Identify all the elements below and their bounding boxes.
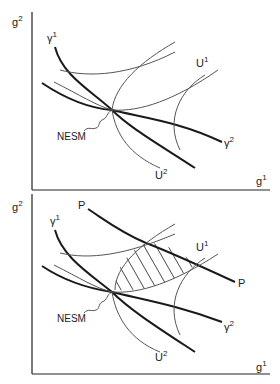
U2-label: U2 <box>155 352 167 363</box>
P-label-right: P <box>238 278 245 289</box>
U1-right-branch <box>174 75 205 150</box>
indifference-curve-upper <box>60 52 175 74</box>
y-axis-label: g2 <box>12 202 23 213</box>
x-axis-label: g1 <box>256 176 267 187</box>
nesm-label: NESM <box>57 132 86 142</box>
P-line <box>88 209 235 282</box>
U2-upper-branch <box>115 224 175 290</box>
nesm-pointer <box>84 292 112 313</box>
gamma1-label: γ1 <box>47 33 57 44</box>
U1-label: U1 <box>196 58 208 69</box>
nesm-label: NESM <box>57 314 86 324</box>
U2-label: U2 <box>155 170 167 181</box>
P-label-left: P <box>78 200 85 211</box>
nesm-pointer <box>84 110 112 131</box>
U1-label: U1 <box>196 242 208 253</box>
gamma2-label: γ2 <box>224 322 234 333</box>
diagram-panel-top: g2 g1 γ1 γ2 U1 U2 NESM <box>0 0 280 192</box>
diagram-panel-bottom: g2 g1 P P γ1 γ2 U1 U2 NESM <box>0 192 280 384</box>
U1-curve <box>54 70 218 110</box>
gamma1-curve <box>55 47 195 168</box>
indifference-curve-upper <box>60 234 175 256</box>
top-diagram-canvas <box>0 0 280 192</box>
gamma2-label: γ2 <box>224 138 234 149</box>
y-axis-label: g2 <box>12 17 23 28</box>
U1-right-branch <box>174 258 205 335</box>
x-axis-label: g1 <box>256 362 267 373</box>
gamma1-curve <box>55 230 195 352</box>
gamma1-label: γ1 <box>50 216 60 227</box>
